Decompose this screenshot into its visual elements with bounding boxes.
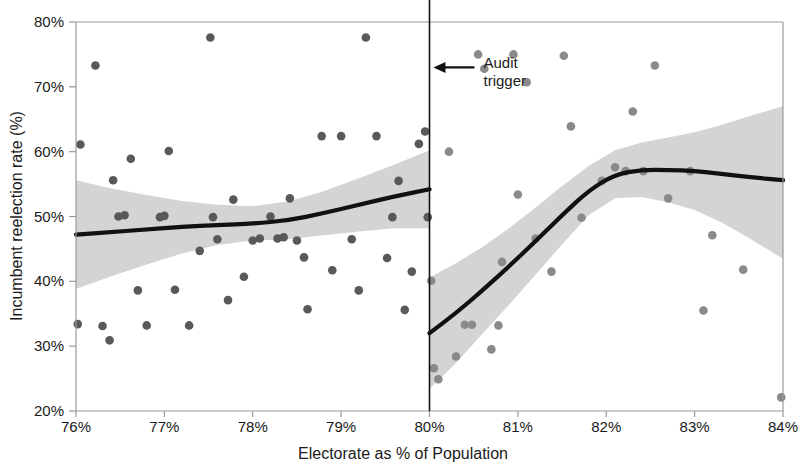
scatter-point [383,254,392,263]
scatter-point [739,265,748,274]
scatter-point [109,176,118,185]
scatter-point [317,132,326,141]
scatter-point [372,132,381,141]
scatter-point [73,320,82,329]
audit-trigger-label-line2: trigger [484,72,527,89]
scatter-point [427,276,436,285]
scatter-point [303,305,312,314]
scatter-point [347,235,356,244]
scatter-point [240,272,249,281]
scatter-point [209,213,218,222]
y-tick-label: 80% [34,13,64,30]
y-axis-title: Incumbent reelection rate (%) [8,111,25,321]
y-tick-label: 70% [34,78,64,95]
x-axis-title: Electorate as % of Population [298,445,508,462]
scatter-point [421,127,430,136]
y-tick-label: 50% [34,208,64,225]
scatter-point [567,122,576,131]
scatter-point [445,147,454,156]
x-tick-label: 82% [591,418,621,435]
scatter-point [487,345,496,354]
scatter-point [560,51,569,60]
scatter-point [300,253,309,262]
scatter-point [256,234,265,243]
scatter-point [452,352,461,361]
rd-scatter-plot: 76%77%78%79%80%81%82%83%84% 20%30%40%50%… [0,0,805,466]
scatter-point [434,375,443,384]
scatter-point [171,285,180,294]
scatter-point [468,320,477,329]
scatter-point [611,163,620,172]
scatter-point [206,33,215,42]
x-tick-label: 83% [680,418,710,435]
scatter-point [355,286,364,295]
audit-trigger-label-line1: Audit [484,54,519,71]
scatter-point [142,321,151,330]
scatter-point [423,213,432,222]
scatter-point [160,212,169,221]
scatter-point [98,322,107,331]
scatter-point [328,266,337,275]
scatter-point [777,393,786,402]
y-tick-label: 40% [34,272,64,289]
scatter-point [293,236,302,245]
scatter-point [415,140,424,149]
scatter-point [279,233,288,242]
scatter-point [126,155,135,164]
y-tick-label: 30% [34,337,64,354]
scatter-point [195,247,204,256]
scatter-point [105,336,114,345]
scatter-point [699,306,708,315]
y-tick-label: 60% [34,143,64,160]
scatter-point [494,321,503,330]
x-tick-label: 81% [503,418,533,435]
scatter-point [120,211,129,220]
scatter-point [651,61,660,70]
scatter-point [514,190,523,199]
scatter-point [76,140,85,149]
x-tick-label: 76% [61,418,91,435]
x-tick-label: 78% [238,418,268,435]
x-tick-label: 77% [149,418,179,435]
scatter-point [628,107,637,116]
scatter-point [430,364,439,373]
scatter-point [664,194,673,203]
scatter-point [388,213,397,222]
scatter-point [337,132,346,141]
scatter-point [498,258,507,267]
chart-root: 76%77%78%79%80%81%82%83%84% 20%30%40%50%… [0,0,805,466]
scatter-point [547,267,556,276]
scatter-point [185,321,194,330]
y-tick-label: 20% [34,402,64,419]
scatter-point [362,33,371,42]
scatter-point [213,235,222,244]
scatter-point [266,212,275,221]
scatter-point [229,195,238,204]
scatter-point [408,267,417,276]
x-tick-label: 84% [768,418,798,435]
scatter-point [164,147,173,156]
scatter-point [400,306,409,315]
scatter-point [474,50,483,59]
scatter-point [394,177,403,186]
scatter-point [577,214,586,223]
scatter-point [708,231,717,240]
scatter-point [286,194,295,203]
scatter-point [91,61,100,70]
x-tick-label: 79% [326,418,356,435]
x-tick-label: 80% [414,418,444,435]
scatter-point [224,296,233,305]
scatter-point [134,286,143,295]
